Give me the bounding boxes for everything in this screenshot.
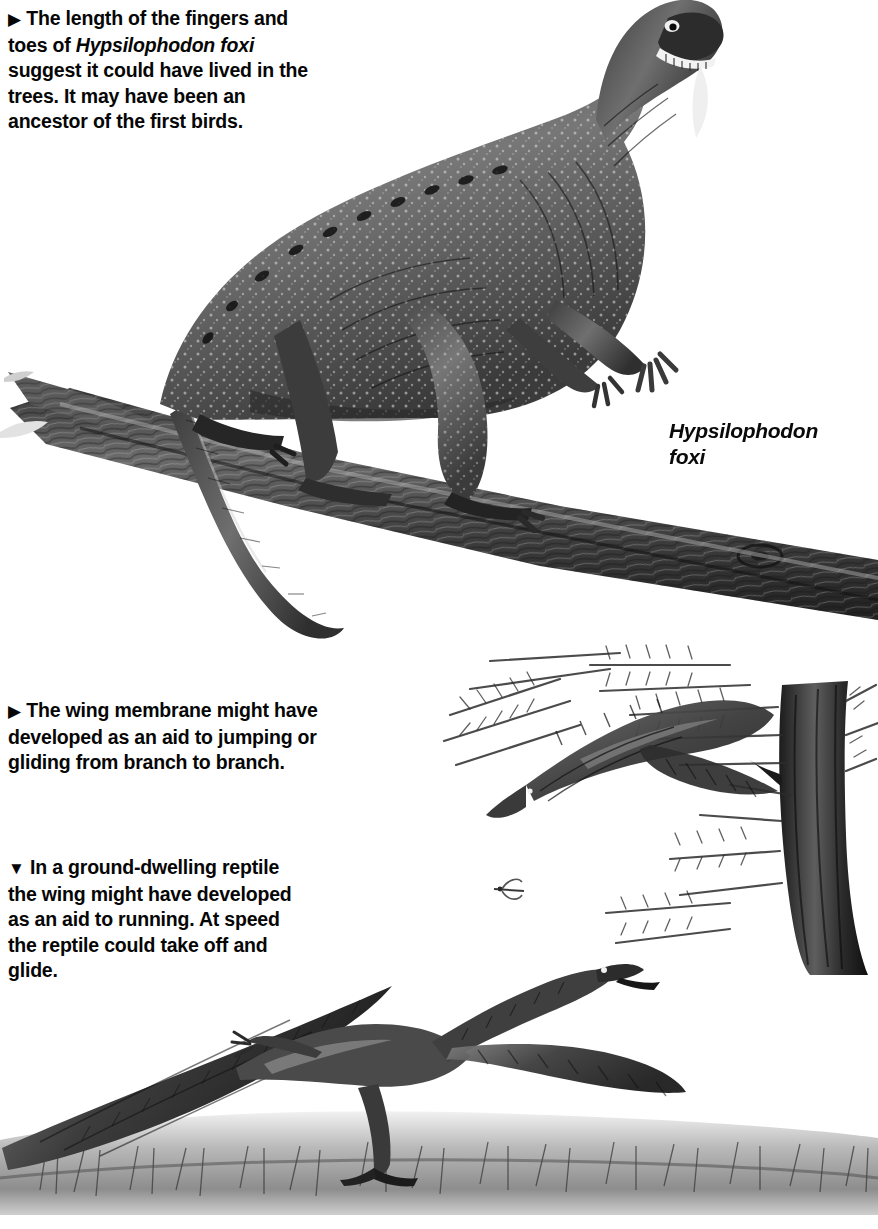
- gliding-reptile: [486, 699, 778, 818]
- right-triangle-bullet-icon: ▶: [8, 702, 21, 721]
- caption-fingers-toes: ▶ The length of the fingers and toes of …: [8, 6, 308, 135]
- right-triangle-bullet-icon: ▶: [8, 10, 21, 29]
- down-triangle-bullet-icon: ▼: [8, 859, 25, 878]
- illustration-page: ▶ The length of the fingers and toes of …: [0, 0, 878, 1229]
- caption-ground-dwelling: ▼ In a ground-dwelling reptile the wing …: [8, 855, 308, 984]
- species-label: Hypsilophodon foxi: [669, 418, 877, 470]
- caption-text: In a ground-dwelling reptile the wing mi…: [8, 856, 292, 981]
- caption-text: The wing membrane might have developed a…: [8, 699, 318, 773]
- hand-fingers: [638, 354, 676, 390]
- caption-wing-membrane: ▶ The wing membrane might have developed…: [8, 698, 320, 776]
- caption-text-part2: suggest it could have lived in the trees…: [8, 59, 308, 132]
- species-label-line1: Hypsilophodon: [669, 418, 877, 444]
- hand-fingers-2: [594, 378, 622, 406]
- species-name-italic: Hypsilophodon foxi: [76, 34, 254, 56]
- species-label-line2: foxi: [669, 444, 877, 470]
